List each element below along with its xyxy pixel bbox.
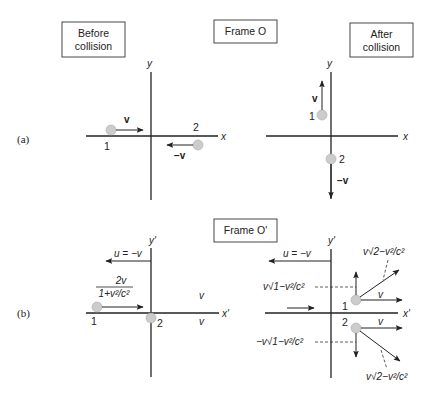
before-y-label: y — [146, 58, 153, 69]
ball1-label: 1 — [91, 315, 97, 327]
ball1-label: 1 — [309, 110, 315, 122]
panel-b: (b) Frame O' y' x' u = −v 2v 1+v²/c² 1 2… — [17, 219, 411, 382]
ball-2 — [146, 313, 156, 323]
before-label-2: collision — [75, 40, 113, 52]
after-y-label: y — [326, 58, 333, 69]
ball1-label: 1 — [104, 140, 110, 152]
after-x-label: x — [402, 131, 409, 142]
vy2-label: −v√1−v²/c² — [256, 336, 304, 347]
ball2-label: 2 — [339, 153, 345, 165]
panel-b-label: (b) — [17, 307, 30, 320]
vx1-label: v — [378, 289, 384, 300]
before-x-label: x — [220, 131, 227, 142]
after-label-2: collision — [363, 41, 401, 53]
v-label-upper: v — [199, 290, 205, 301]
leader-line — [383, 260, 388, 280]
ball2-label: 2 — [342, 316, 348, 328]
ball2-label: 2 — [157, 317, 163, 329]
collision-diagram: (a) Before collision Frame O After colli… — [0, 0, 438, 399]
leader-line — [381, 350, 387, 369]
ball-2 — [326, 154, 336, 164]
vx2-label: v — [378, 316, 384, 327]
frame-velocity-label: u = −v — [114, 248, 143, 259]
ball2-label: 2 — [193, 121, 199, 133]
panel-a-label: (a) — [17, 133, 30, 146]
panel-a: (a) Before collision Frame O After colli… — [17, 20, 413, 200]
speed-bottom-label: v√2−v²/c² — [366, 371, 408, 382]
ball2-velocity-label: −v — [174, 150, 186, 161]
frame-o-label: Frame O — [225, 25, 266, 37]
after-x-label: x' — [402, 308, 411, 319]
ball1-label: 1 — [342, 300, 348, 312]
frame-velocity-label: u = −v — [283, 248, 312, 259]
speed2-arrow — [360, 331, 400, 361]
ball-2 — [193, 140, 203, 150]
ball-1 — [351, 295, 361, 305]
v-label-lower: v — [199, 316, 205, 327]
speed-top-label: v√2−v²/c² — [363, 246, 405, 257]
ball-1 — [317, 110, 327, 120]
ball1-speed-numerator: 2v — [115, 275, 128, 286]
ball1-velocity-label: v — [312, 93, 318, 104]
ball1-velocity-label: v — [124, 114, 130, 125]
ball2-velocity-label: −v — [337, 175, 349, 186]
ball-1 — [106, 125, 116, 135]
after-label-1: After — [370, 28, 393, 40]
ball1-speed-denominator: 1+v²/c² — [99, 288, 131, 299]
vy1-label: v√1−v²/c² — [263, 281, 305, 292]
ball-2 — [351, 323, 361, 333]
ball-1 — [92, 302, 102, 312]
after-y-label: y' — [327, 235, 336, 246]
before-y-label: y' — [148, 235, 157, 246]
frame-o-prime-label: Frame O' — [224, 224, 267, 236]
before-label-1: Before — [78, 27, 109, 39]
before-x-label: x' — [221, 308, 230, 319]
